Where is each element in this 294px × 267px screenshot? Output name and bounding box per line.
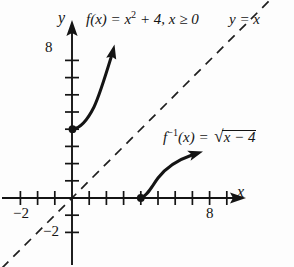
radical-group: √x − 4 [212, 128, 255, 145]
y-axis-label: y [58, 10, 65, 26]
x-tick-label-8: 8 [206, 206, 214, 221]
curve-f-of-x [69, 45, 117, 134]
x-tick-label-minus-2: −2 [13, 206, 29, 221]
vinculum-bar [222, 130, 256, 131]
inverse-function-graph-figure: y x 8 −2 −2 8 f(x) = x2 + 4, x ≥ 0 y = x… [0, 0, 294, 267]
radicand: x − 4 [224, 129, 256, 145]
y-axis [65, 20, 79, 265]
inverse-equation-mid: (x) = [178, 129, 212, 145]
x-axis [2, 191, 246, 205]
inverse-function-equation-label: f−1(x) = √x − 4 [163, 128, 255, 145]
function-equation-body: (x) = x [90, 11, 131, 27]
y-tick-label-8: 8 [45, 40, 53, 55]
endpoint-dot-f [69, 125, 77, 133]
x-axis-label: x [237, 184, 244, 200]
function-equation-label: f(x) = x2 + 4, x ≥ 0 [86, 12, 199, 27]
inverse-equation-exponent: −1 [167, 127, 178, 138]
y-tick-label-minus-2: −2 [43, 224, 59, 239]
identity-line-label: y = x [229, 12, 260, 27]
function-equation-tail: + 4, x ≥ 0 [136, 11, 199, 27]
endpoint-dot-f-inverse [137, 194, 145, 202]
